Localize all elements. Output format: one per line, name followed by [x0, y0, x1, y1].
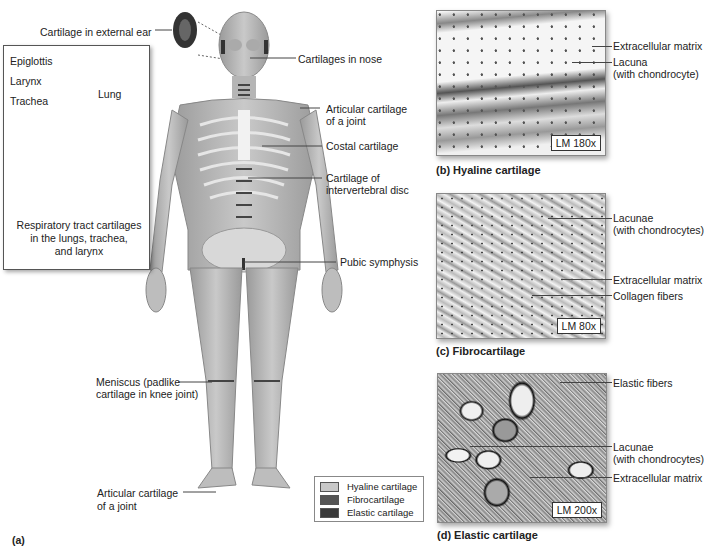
legend-item-hyaline: Hyaline cartilage: [320, 480, 423, 493]
panel-title-fibrocartilage: (c) Fibrocartilage: [436, 345, 525, 357]
micrograph-hyaline: LM 180x: [436, 10, 606, 156]
legend-item-fibro: Fibrocartilage: [320, 493, 423, 506]
label-collagen-fibers: Collagen fibers: [613, 290, 683, 302]
label-intervertebral-1: Cartilage of: [326, 172, 380, 184]
label-articular-shoulder-2: of a joint: [326, 115, 366, 127]
magnification-badge: LM 200x: [552, 502, 602, 518]
swatch-hyaline: [320, 482, 339, 492]
label-meniscus-1: Meniscus (padlike: [96, 376, 180, 388]
label-articular-shoulder-1: Articular cartilage: [326, 103, 407, 115]
label-larynx: Larynx: [10, 75, 42, 87]
legend-label: Fibrocartilage: [347, 494, 405, 505]
label-extracellular-matrix: Extracellular matrix: [613, 274, 702, 286]
label-with-chondrocytes: (with chondrocytes): [613, 224, 704, 236]
inset-caption-line3: and larynx: [10, 245, 148, 257]
label-intervertebral-2: intervertebral disc: [326, 184, 409, 196]
inset-caption-line2: in the lungs, trachea,: [10, 232, 148, 244]
legend-label: Elastic cartilage: [347, 507, 414, 518]
label-extracellular-matrix: Extracellular matrix: [613, 472, 702, 484]
label-epiglottis: Epiglottis: [10, 55, 53, 67]
label-lacunae: Lacunae: [613, 212, 653, 224]
micrograph-elastic: LM 200x: [437, 373, 607, 523]
figure-label-a: (a): [12, 534, 25, 546]
swatch-fibro: [320, 495, 339, 505]
magnification-badge: LM 180x: [551, 135, 601, 151]
panel-title-elastic: (d) Elastic cartilage: [437, 529, 538, 541]
label-lung: Lung: [98, 88, 121, 100]
swatch-elastic: [320, 508, 339, 518]
label-with-chondrocyte: (with chondrocyte): [613, 68, 699, 80]
inset-caption-line1: Respiratory tract cartilages: [10, 219, 148, 231]
label-meniscus-2: cartilage in knee joint): [96, 388, 198, 400]
cartilage-legend: Hyaline cartilage Fibrocartilage Elastic…: [314, 476, 424, 522]
legend-item-elastic: Elastic cartilage: [320, 506, 423, 519]
panel-title-hyaline: (b) Hyaline cartilage: [436, 164, 541, 176]
micrograph-fibrocartilage: LM 80x: [436, 193, 606, 339]
label-nose: Cartilages in nose: [298, 53, 382, 65]
label-extracellular-matrix: Extracellular matrix: [613, 40, 702, 52]
label-external-ear: Cartilage in external ear: [40, 26, 151, 38]
label-trachea: Trachea: [10, 95, 48, 107]
magnification-badge: LM 80x: [557, 318, 601, 334]
label-costal: Costal cartilage: [326, 140, 398, 152]
label-pubic-symphysis: Pubic symphysis: [340, 256, 418, 268]
legend-label: Hyaline cartilage: [347, 481, 417, 492]
label-with-chondrocytes: (with chondrocytes): [613, 453, 704, 465]
label-articular-ankle-1: Articular cartilage: [97, 487, 178, 499]
label-articular-ankle-2: of a joint: [97, 500, 137, 512]
label-lacuna: Lacuna: [613, 56, 647, 68]
label-elastic-fibers: Elastic fibers: [613, 377, 673, 389]
label-lacunae: Lacunae: [613, 441, 653, 453]
